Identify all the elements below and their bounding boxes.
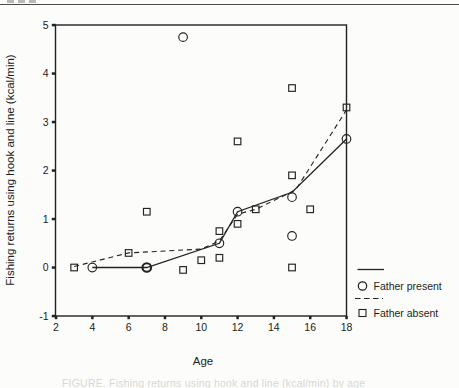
- y-tick-mark: [52, 169, 56, 172]
- x-tick-label: 10: [195, 321, 207, 333]
- data-point-circle: [288, 232, 297, 241]
- x-tick-label: 16: [304, 321, 316, 333]
- clipped-figure-caption: FIGURE. Fishing returns using hook and l…: [62, 377, 402, 388]
- x-tick-label: 18: [341, 321, 353, 333]
- y-tick-label: 5: [43, 19, 49, 31]
- data-point-circle: [288, 193, 297, 202]
- y-tick-mark: [52, 266, 56, 269]
- x-tick-label: 2: [53, 321, 59, 333]
- data-point-square: [234, 138, 241, 145]
- data-point-square: [198, 257, 205, 264]
- x-tick-mark: [236, 316, 239, 319]
- y-tick-label: -1: [39, 310, 48, 322]
- y-tick-label: 4: [43, 67, 49, 79]
- x-tick-mark: [127, 316, 130, 319]
- x-tick-label: 4: [89, 321, 95, 333]
- x-tick-mark: [91, 316, 94, 319]
- data-point-square: [180, 267, 187, 274]
- x-axis-title: Age: [193, 355, 213, 367]
- trend-line-solid: [92, 139, 346, 268]
- x-tick-label: 14: [268, 321, 280, 333]
- y-tick-label: 2: [43, 164, 49, 176]
- y-axis-title: Fishing returns using hook and line (kca…: [4, 54, 16, 286]
- legend-label-father-present: Father present: [374, 280, 442, 292]
- y-tick-label: 3: [43, 116, 49, 128]
- data-point-square: [289, 85, 296, 92]
- y-tick-label: 1: [43, 213, 49, 225]
- x-tick-mark: [345, 316, 348, 319]
- x-tick-mark: [309, 316, 312, 319]
- data-point-square: [143, 208, 150, 215]
- data-point-square: [289, 172, 296, 179]
- data-point-square: [252, 206, 259, 213]
- x-tick-mark: [164, 316, 167, 319]
- legend: Father present Father absent: [355, 270, 442, 319]
- x-tick-mark: [200, 316, 203, 319]
- y-tick-mark: [52, 315, 56, 318]
- y-tick-mark: [52, 218, 56, 221]
- figure-page: 24681012141618543210-1 Age Fishing retur…: [0, 0, 459, 388]
- x-tick-label: 12: [232, 321, 244, 333]
- data-point-square: [216, 228, 223, 235]
- scatter-chart: 24681012141618543210-1 Age Fishing retur…: [0, 0, 459, 388]
- data-point-square: [307, 206, 314, 213]
- legend-square-marker: [359, 310, 366, 317]
- y-tick-label: 0: [43, 261, 49, 273]
- x-tick-mark: [273, 316, 276, 319]
- data-point-square: [216, 255, 223, 262]
- legend-label-father-absent: Father absent: [374, 307, 439, 319]
- data-point-square: [71, 264, 78, 271]
- y-tick-mark: [52, 121, 56, 124]
- plot-area: 24681012141618543210-1: [39, 19, 352, 333]
- data-point-square: [234, 221, 241, 228]
- y-tick-mark: [52, 72, 56, 75]
- y-tick-mark: [52, 24, 56, 27]
- data-point-circle: [179, 33, 188, 42]
- x-tick-label: 8: [162, 321, 168, 333]
- data-point-square: [289, 264, 296, 271]
- plot-frame: [56, 25, 347, 316]
- legend-circle-marker: [358, 282, 366, 290]
- trend-line-dashed: [74, 110, 346, 267]
- x-tick-label: 6: [126, 321, 132, 333]
